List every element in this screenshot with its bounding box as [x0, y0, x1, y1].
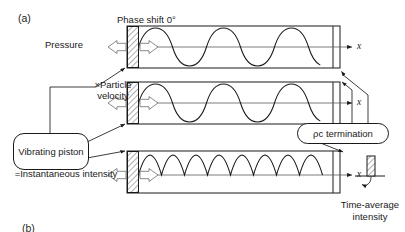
- vibrating-piston-text: Vibrating piston: [18, 146, 83, 157]
- rho-c-termination-label: ρc termination: [297, 123, 389, 144]
- figure-panel-a: (a) (b) Phase shift 0° Pressure ×Particl…: [0, 0, 405, 232]
- phase-shift-label: Phase shift 0°: [117, 14, 176, 25]
- piston-hatch-pressure: [128, 27, 139, 68]
- axis-label-instantaneous-intensity: x: [357, 169, 361, 180]
- panel-label-a: (a): [18, 13, 31, 24]
- rho-c-termination-text: ρc termination: [313, 128, 373, 139]
- vibrating-piston-label: Vibrating piston: [13, 133, 89, 170]
- row-label-pressure: Pressure: [45, 39, 83, 50]
- row-label-particle-velocity: ×Particle velocity: [78, 79, 148, 101]
- piston-hatch-instantaneous-intensity: [128, 152, 139, 193]
- tube-instantaneous-intensity: [108, 151, 352, 193]
- time-average-intensity-label: Time-average intensity: [337, 199, 403, 222]
- piston-motion-arrow-left-pressure: [108, 41, 126, 54]
- tube-pressure: [108, 26, 352, 68]
- axis-label-pressure: x: [357, 41, 361, 52]
- panel-label-b: (b): [22, 223, 35, 232]
- axis-label-particle-velocity: x: [357, 97, 361, 108]
- diagram-canvas: [0, 0, 405, 232]
